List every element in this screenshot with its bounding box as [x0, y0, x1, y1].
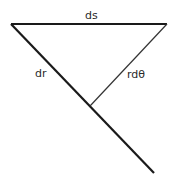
ds-label: ds — [85, 9, 98, 22]
polar-arc-element-diagram: ds dr rdθ — [0, 0, 174, 183]
rdtheta-label: rdθ — [127, 68, 145, 81]
dr-label: dr — [35, 67, 47, 80]
dr-line — [11, 24, 154, 173]
rdtheta-line — [90, 24, 167, 106]
